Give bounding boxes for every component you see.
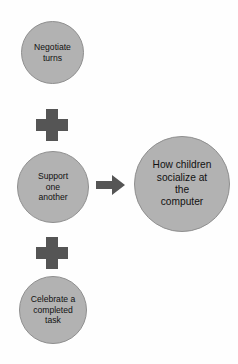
node-celebrate-completed-task-label: Celebrate a completed task (27, 294, 79, 325)
node-how-children-socialize[interactable]: How children socialize at the computer (134, 136, 230, 232)
node-celebrate-completed-task[interactable]: Celebrate a completed task (19, 276, 87, 344)
concept-diagram: Negotiate turns Support one another Cele… (0, 0, 238, 364)
right-arrow-icon (96, 175, 125, 195)
node-support-one-another-label: Support one another (34, 171, 72, 202)
node-negotiate-turns-label: Negotiate turns (30, 42, 75, 63)
node-how-children-socialize-label: How children socialize at the computer (149, 159, 216, 209)
plus-icon-1 (36, 109, 68, 141)
node-support-one-another[interactable]: Support one another (17, 151, 89, 223)
plus-icon-2 (36, 237, 68, 269)
node-negotiate-turns[interactable]: Negotiate turns (21, 21, 84, 84)
